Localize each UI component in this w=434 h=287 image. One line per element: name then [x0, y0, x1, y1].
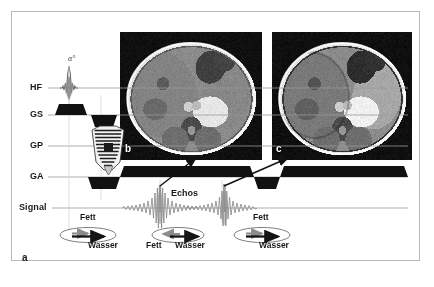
echoes-label: Echos: [171, 188, 198, 198]
vector-3-water-label: Wasser: [259, 240, 289, 250]
timing-guides: [69, 70, 222, 230]
sequence-diagram-svg: [0, 0, 434, 287]
slice-select-gradient: [55, 104, 117, 127]
panel-letter-a: a: [22, 252, 28, 263]
vector-1-fat-label: Fett: [80, 212, 96, 222]
readout-gradient: [88, 166, 408, 189]
axis-label-gs: GS: [30, 109, 43, 119]
vector-2-fat-label: Fett: [146, 240, 162, 250]
diagram-stage: α° HF GS GP GA Signal Echos Fett Wasser …: [0, 0, 434, 287]
figure-root: α° HF GS GP GA Signal Echos Fett Wasser …: [0, 0, 434, 287]
axis-label-ga: GA: [30, 171, 44, 181]
axis-label-signal: Signal: [19, 202, 47, 212]
vector-2-water-label: Wasser: [175, 240, 205, 250]
axis-label-hf: HF: [30, 82, 42, 92]
panel-letter-b: b: [125, 143, 131, 154]
flip-angle-label: α°: [68, 54, 75, 63]
phase-encode-gradient: [92, 126, 124, 175]
vector-1-water-label: Wasser: [88, 240, 118, 250]
vector-3-fat-label: Fett: [253, 212, 269, 222]
panel-letter-c: c: [276, 143, 282, 154]
axis-label-gp: GP: [30, 140, 43, 150]
